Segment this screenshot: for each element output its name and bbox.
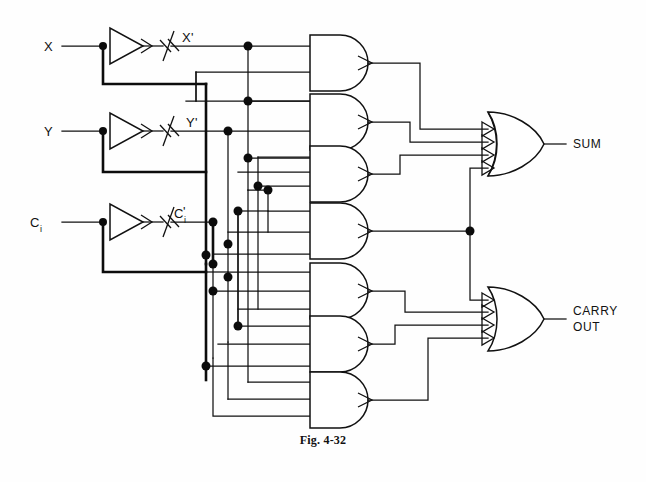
and-gate-2 — [310, 94, 488, 150]
and-gate-3-body — [310, 146, 368, 202]
input-row-ci — [62, 204, 213, 272]
junction-dot-ciprime-1 — [209, 218, 218, 227]
inverter-x-body — [110, 28, 143, 64]
junction-dot-ciprime-2 — [209, 260, 218, 269]
and-gate-2-output-wire — [368, 122, 488, 142]
or-gate-sum: SUM — [482, 112, 601, 176]
input-row-y — [62, 113, 228, 172]
and-gate-4-to-sum — [470, 168, 488, 231]
and-gate-2-body — [310, 94, 368, 150]
and-gate-5-body — [310, 263, 368, 319]
inverter-x-output-label-group: X ' — [182, 30, 194, 45]
figure-caption: Fig. 4-32 — [0, 433, 646, 448]
inverter-x-output-prime: ' — [191, 30, 194, 45]
carry-output-label-line1: CARRY — [573, 304, 618, 318]
inverter-y-output-label: Y — [186, 115, 195, 130]
logic-circuit-diagram: SUM CARRY OUT X Y C i X ' Y ' C — [0, 0, 646, 482]
junction-dot-yprime-2 — [224, 240, 233, 249]
and-gate-1-body — [310, 35, 368, 91]
sum-output-label: SUM — [573, 137, 601, 151]
and-gate-1-output-wire — [368, 63, 488, 129]
junction-dot-x-bus-1 — [202, 251, 211, 260]
inverter-x-bar-2 — [168, 39, 179, 51]
input-label-y: Y — [44, 124, 53, 139]
inverter-y-bar-2 — [168, 124, 179, 136]
or-gate-carry: CARRY OUT — [482, 287, 618, 351]
and-gate-4-body — [310, 203, 368, 259]
and-gate-7-output-wire — [368, 338, 488, 400]
carry-output-label-line2: OUT — [573, 320, 600, 334]
inverter-y-output-label-group: Y ' — [186, 115, 198, 130]
inverter-ci-output-sub: i — [184, 215, 186, 225]
and-gate-4-to-carry — [470, 231, 488, 300]
inverter-y-output-prime: ' — [195, 115, 198, 130]
input-label-x: X — [44, 39, 53, 54]
inverter-x-output-label: X — [182, 30, 191, 45]
and-gate-6 — [310, 316, 488, 372]
input-label-ci: C — [30, 215, 40, 230]
inverter-y-body — [110, 113, 143, 149]
and-gate-6-body — [310, 316, 368, 372]
input-label-ci-sub: i — [40, 224, 42, 234]
junction-dot-yprime-3 — [224, 273, 233, 282]
and-gate-7-body — [310, 372, 368, 428]
input-row-x — [62, 28, 248, 84]
or-gate-sum-shape — [488, 112, 544, 176]
inverter-ci-body — [110, 204, 143, 240]
figure-page: SUM CARRY OUT X Y C i X ' Y ' C — [0, 0, 646, 482]
and-gate-5 — [310, 263, 488, 319]
input-label-ci-group: C i — [30, 215, 42, 234]
or-gate-carry-shape — [488, 287, 544, 351]
and-gate-3 — [310, 146, 488, 202]
